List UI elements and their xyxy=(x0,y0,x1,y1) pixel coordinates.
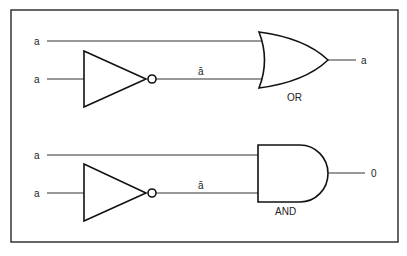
or-input-top-label: a xyxy=(34,36,40,47)
and-input-top-label: a xyxy=(34,150,40,161)
and-gate xyxy=(258,145,328,202)
or-output-label: a xyxy=(361,55,367,66)
or-input-bottom-label: a xyxy=(34,74,40,85)
not-gate-1 xyxy=(84,51,146,107)
or-gate xyxy=(259,32,328,88)
or-not-output-label: ā xyxy=(198,66,204,77)
and-output-label: 0 xyxy=(371,168,377,179)
logic-diagram: a a ā a OR a a ā 0 AND xyxy=(0,0,407,256)
and-not-output-label: ā xyxy=(198,180,204,191)
and-gate-label: AND xyxy=(275,206,296,217)
and-circuit: a a ā 0 AND xyxy=(34,145,377,221)
diagram-frame xyxy=(11,10,398,242)
not-gate-1-bubble xyxy=(148,75,156,83)
not-gate-2-bubble xyxy=(148,189,156,197)
and-input-bottom-label: a xyxy=(34,188,40,199)
or-gate-label: OR xyxy=(287,92,302,103)
or-circuit: a a ā a OR xyxy=(34,32,367,107)
not-gate-2 xyxy=(84,164,146,221)
